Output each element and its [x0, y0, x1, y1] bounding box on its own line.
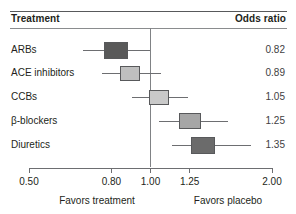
axis-tick: [272, 168, 273, 173]
column-header-treatment: Treatment: [11, 13, 60, 24]
column-header-odds-ratio: Odds ratio: [235, 13, 286, 24]
axis-tick-label: 0.50: [19, 176, 38, 187]
axis-tick-label: 1.25: [180, 176, 199, 187]
row-label: ACE inhibitors: [11, 68, 74, 78]
footnote-favors-placebo: Favors placebo: [194, 195, 262, 206]
point-estimate-marker: [120, 66, 140, 81]
odds-ratio-value: 1.35: [266, 140, 285, 150]
axis-tick-label: 2.00: [262, 176, 281, 187]
odds-ratio-value: 1.25: [266, 116, 285, 126]
axis-tick: [189, 168, 190, 173]
point-estimate-marker: [149, 90, 169, 105]
axis-tick-label: 1.00: [141, 176, 160, 187]
axis-tick: [29, 168, 30, 173]
odds-ratio-value: 0.82: [266, 45, 285, 55]
point-estimate-marker: [191, 137, 215, 154]
forest-plot: Treatment Odds ratio ARBs0.82ACE inhibit…: [0, 0, 296, 214]
axis-tick: [150, 168, 151, 173]
header-rule-bottom: [10, 28, 287, 29]
axis-tick-label: 0.80: [102, 176, 121, 187]
odds-ratio-value: 1.05: [266, 92, 285, 102]
footnote-favors-treatment: Favors treatment: [59, 195, 135, 206]
row-label: ARBs: [11, 45, 37, 55]
odds-ratio-value: 0.89: [266, 68, 285, 78]
row-label: β-blockers: [11, 116, 57, 126]
row-label: CCBs: [11, 92, 37, 102]
point-estimate-marker: [104, 42, 128, 59]
point-estimate-marker: [179, 113, 201, 129]
axis-tick: [111, 168, 112, 173]
row-label: Diuretics: [11, 140, 50, 150]
header-rule-top: [10, 11, 287, 12]
